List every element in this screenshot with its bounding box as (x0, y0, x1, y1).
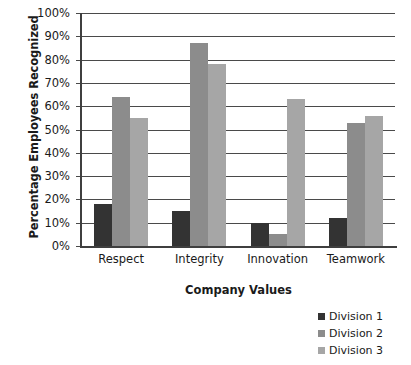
y-axis-ticks: 0%10%20%30%40%50%60%70%80%90%100% (0, 13, 80, 246)
bar-group (160, 13, 238, 246)
legend-item: Division 2 (318, 325, 408, 342)
bar (208, 64, 226, 246)
y-axis-tick-label: 80% (8, 53, 70, 67)
bar (94, 204, 112, 246)
bar (190, 43, 208, 246)
y-axis-tick-label: 10% (8, 216, 70, 230)
legend-swatch (318, 330, 325, 337)
legend-label: Division 1 (329, 310, 383, 323)
x-axis-tick-label: Integrity (160, 252, 238, 272)
x-axis-line (80, 246, 397, 248)
bar-chart: Percentage Employees Recognized 0%10%20%… (0, 0, 411, 365)
y-axis-tick-label: 50% (8, 123, 70, 137)
x-axis-tick-label: Innovation (239, 252, 317, 272)
y-axis-tick-label: 30% (8, 169, 70, 183)
bar (347, 123, 365, 246)
bar-groups (82, 13, 395, 246)
bar (112, 97, 130, 246)
bar (365, 116, 383, 246)
y-axis-tick-label: 60% (8, 99, 70, 113)
x-axis-tick-label: Teamwork (317, 252, 395, 272)
bar (251, 223, 269, 246)
y-axis-tick-label: 70% (8, 76, 70, 90)
bar (130, 118, 148, 246)
y-axis-tick-label: 40% (8, 146, 70, 160)
bar-group (239, 13, 317, 246)
x-axis-tick-label: Respect (82, 252, 160, 272)
legend-swatch (318, 347, 325, 354)
legend-label: Division 2 (329, 327, 383, 340)
bar (172, 211, 190, 246)
y-axis-tick-label: 90% (8, 29, 70, 43)
x-axis-title: Company Values (82, 283, 395, 297)
y-axis-tick-label: 0% (8, 239, 70, 253)
bar-group (82, 13, 160, 246)
y-axis-tick-label: 100% (8, 6, 70, 20)
y-axis-tick-label: 20% (8, 192, 70, 206)
x-axis-tick-labels: RespectIntegrityInnovationTeamwork (82, 252, 395, 272)
legend-item: Division 1 (318, 308, 408, 325)
legend-swatch (318, 313, 325, 320)
bar-group (317, 13, 395, 246)
legend-label: Division 3 (329, 344, 383, 357)
chart-legend: Division 1Division 2Division 3 (318, 308, 408, 359)
bar (287, 99, 305, 246)
bar (329, 218, 347, 246)
bar (269, 234, 287, 246)
legend-item: Division 3 (318, 342, 408, 359)
